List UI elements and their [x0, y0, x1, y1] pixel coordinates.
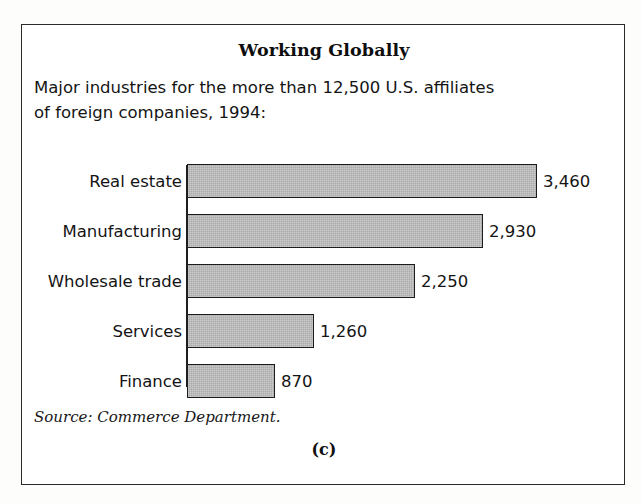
bar	[187, 264, 415, 298]
subtitle-line-2: of foreign companies, 1994:	[34, 100, 594, 125]
bar	[187, 364, 275, 398]
figure-frame: Working Globally Major industries for th…	[21, 24, 625, 485]
bar	[187, 214, 483, 248]
panel-letter-label: (c)	[22, 440, 626, 459]
bar-value-label: 2,930	[489, 222, 536, 241]
bar	[187, 314, 314, 348]
subtitle-line-1: Major industries for the more than 12,50…	[34, 75, 594, 100]
bar-value-label: 870	[281, 372, 313, 391]
bar-row: Finance870	[22, 364, 626, 398]
bar-row: Real estate3,460	[22, 164, 626, 198]
bar-row: Manufacturing2,930	[22, 214, 626, 248]
category-label: Finance	[119, 372, 182, 391]
category-label: Manufacturing	[63, 222, 182, 241]
bar-row: Wholesale trade2,250	[22, 264, 626, 298]
figure-panel: Working Globally Major industries for th…	[0, 0, 642, 504]
bar-value-label: 3,460	[543, 172, 590, 191]
source-note: Source: Commerce Department.	[34, 408, 281, 426]
bar-value-label: 2,250	[421, 272, 468, 291]
category-label: Wholesale trade	[48, 272, 182, 291]
category-label: Real estate	[89, 172, 182, 191]
bar-chart-plot-area: Real estate3,460Manufacturing2,930Wholes…	[22, 138, 626, 388]
chart-subtitle: Major industries for the more than 12,50…	[34, 75, 594, 125]
bar	[187, 164, 537, 198]
page-title: Working Globally	[22, 40, 626, 60]
category-label: Services	[112, 322, 182, 341]
bar-value-label: 1,260	[320, 322, 367, 341]
bar-row: Services1,260	[22, 314, 626, 348]
